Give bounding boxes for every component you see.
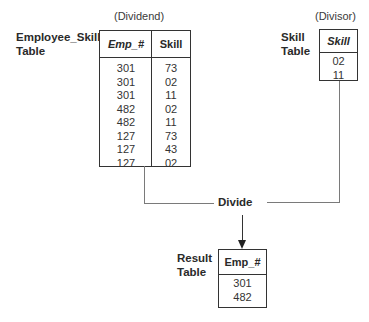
dividend-caption: (Dividend) [114,10,164,22]
skill-column: 73 02 11 02 11 73 43 02 [152,62,190,170]
divisor-connector-horizontal [267,202,340,203]
dividend-label-line1: Employee_Skill [16,30,100,44]
emp-column: 301 301 301 482 482 127 127 127 [100,62,152,170]
table-header: Emp_# [219,250,266,275]
cell: 43 [165,143,177,157]
arrow-shaft [242,215,243,242]
cell: 301 [117,76,135,90]
emp-column: 301 482 [219,277,266,304]
cell: 73 [165,130,177,144]
cell: 02 [165,103,177,117]
cell: 482 [117,103,135,117]
cell: 127 [117,157,135,171]
skill-column: 02 11 [320,55,357,82]
skill-table-label: Skill Table [281,30,310,58]
cell: 127 [117,143,135,157]
cell: 73 [165,62,177,76]
column-header-emp: Emp_# [100,31,152,57]
cell: 11 [165,116,176,130]
divisor-caption: (Divisor) [315,10,356,22]
arrow-down-icon [238,240,246,249]
column-header-skill: Skill [320,30,357,52]
cell: 11 [165,89,176,103]
cell: 02 [165,76,177,90]
divisor-connector-vertical [339,81,340,203]
employee-skill-table: Emp_# Skill 301 301 301 482 482 127 127 … [99,30,191,167]
dividend-connector-vertical [144,166,145,204]
cell: 02 [165,157,177,171]
result-label-line1: Result [177,251,212,265]
cell: 482 [233,291,251,305]
cell: 127 [117,130,135,144]
cell: 301 [117,89,135,103]
dividend-label-line2: Table [16,44,100,58]
dividend-table-label: Employee_Skill Table [16,30,100,58]
table-header: Skill [320,30,357,53]
cell: 301 [233,277,251,291]
cell: 301 [117,62,135,76]
column-header-skill: Skill [152,31,190,57]
result-table: Emp_# 301 482 [218,249,267,308]
dividend-connector-horizontal [144,203,214,204]
cell: 11 [333,69,344,83]
skill-table: Skill 02 11 [319,29,358,81]
cell: 02 [332,55,344,69]
cell: 482 [117,116,135,130]
divide-operation-label: Divide [218,196,253,208]
skill-label-line1: Skill [281,30,310,44]
result-label-line2: Table [177,265,212,279]
column-header-emp: Emp_# [219,250,266,274]
result-table-label: Result Table [177,251,212,279]
skill-label-line2: Table [281,44,310,58]
table-header: Emp_# Skill [100,31,190,58]
